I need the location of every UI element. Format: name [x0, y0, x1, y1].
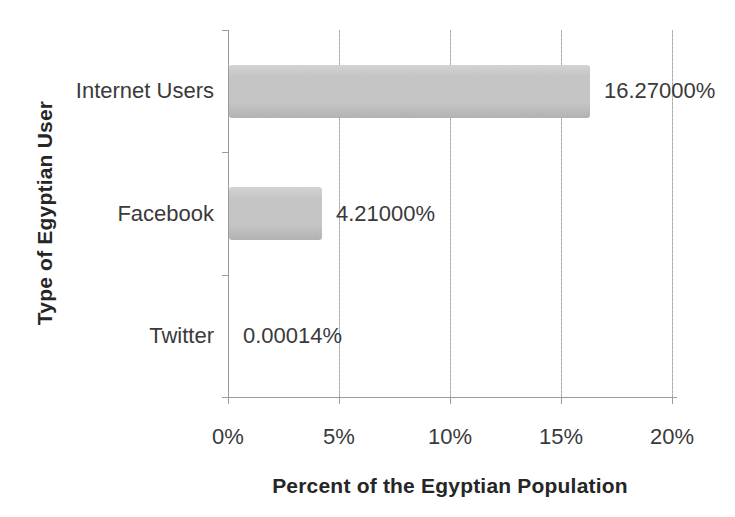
x-tick-label: 15%	[521, 424, 601, 450]
bar-value-label: 16.27000%	[604, 78, 715, 104]
bar	[229, 187, 322, 240]
axis-tick	[339, 397, 340, 404]
x-axis-title: Percent of the Egyptian Population	[228, 474, 672, 498]
axis-tick	[222, 30, 228, 31]
axis-tick	[222, 275, 228, 276]
axis-tick	[222, 152, 228, 153]
bar-value-label: 4.21000%	[336, 201, 435, 227]
axis-tick	[228, 397, 229, 404]
plot-area: 16.27000%4.21000%0.00014%	[228, 30, 672, 397]
bar-grain-texture	[229, 187, 322, 240]
x-tick-label: 10%	[410, 424, 490, 450]
x-tick-label: 0%	[188, 424, 268, 450]
category-label: Facebook	[0, 201, 214, 227]
bar-grain-texture	[229, 65, 590, 118]
x-tick-label: 5%	[299, 424, 379, 450]
bar-value-label: 0.00014%	[243, 323, 342, 349]
chart-figure: Type of Egyptian User 16.27000%4.21000%0…	[0, 0, 735, 517]
x-tick-label: 20%	[632, 424, 712, 450]
axis-tick	[561, 397, 562, 404]
axis-tick	[450, 397, 451, 404]
category-label: Twitter	[0, 323, 214, 349]
axis-tick	[672, 397, 673, 404]
bar	[229, 65, 590, 118]
category-label: Internet Users	[0, 78, 214, 104]
